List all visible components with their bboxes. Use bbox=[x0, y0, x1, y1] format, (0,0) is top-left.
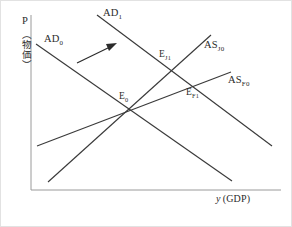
y-axis-subtitle-jp: （物価） bbox=[20, 30, 30, 70]
x-axis-title: y(GDP) bbox=[216, 194, 250, 204]
ad-as-diagram: P （物価） y(GDP) AD1 AD0 ASJ0 ASF0 E0 EJ1 E… bbox=[0, 0, 292, 227]
curve-label-ad1: AD1 bbox=[103, 8, 122, 19]
point-label-ej1: EJ1 bbox=[159, 50, 171, 60]
curve-label-asf0-base: AS bbox=[228, 74, 242, 85]
point-label-ef1-sub: F1 bbox=[192, 92, 199, 99]
curve-label-asj0-base: AS bbox=[204, 39, 218, 50]
y-axis-title: P bbox=[22, 16, 28, 27]
curve-label-ad0-base: AD bbox=[44, 33, 60, 44]
curve-label-ad0-sub: 0 bbox=[60, 39, 64, 46]
curve-label-asf0: ASF0 bbox=[228, 75, 250, 86]
point-label-e0-sub: 0 bbox=[125, 96, 128, 103]
curve-label-asj0: ASJ0 bbox=[204, 40, 224, 51]
curve-label-asj0-sub: J0 bbox=[218, 45, 225, 52]
point-label-ej1-sub: J1 bbox=[165, 54, 171, 61]
curve-label-asf0-sub: F0 bbox=[242, 80, 250, 87]
curve-label-ad1-sub: 1 bbox=[119, 13, 123, 20]
point-label-ef1: EF1 bbox=[186, 88, 199, 98]
x-axis-title-unit: (GDP) bbox=[223, 193, 251, 204]
point-label-e0: E0 bbox=[119, 92, 128, 102]
curve-label-ad0: AD0 bbox=[44, 34, 63, 45]
curve-label-ad1-base: AD bbox=[103, 7, 119, 18]
x-axis-title-variable: y bbox=[216, 193, 221, 204]
